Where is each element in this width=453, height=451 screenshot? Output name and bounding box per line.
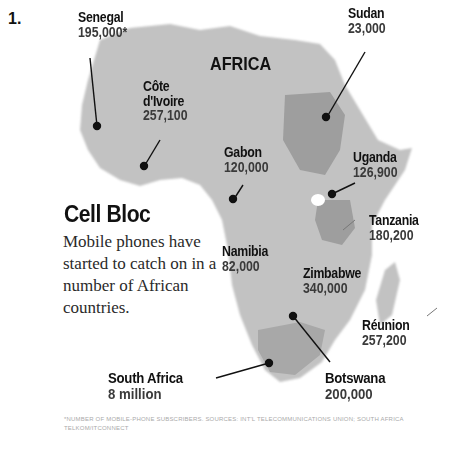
country-name: Botswana (325, 370, 385, 386)
label-zimbabwe: Zimbabwe 340,000 (303, 266, 369, 295)
label-gabon: Gabon 120,000 (224, 145, 275, 174)
label-reunion: Réunion 257,200 (362, 318, 416, 347)
country-name: Côte d'Ivoire (143, 79, 196, 108)
country-value: 8 million (108, 386, 183, 402)
country-value: 257,200 (362, 333, 409, 348)
country-name: Tanzania (369, 213, 419, 228)
country-value: 23,000 (348, 21, 386, 36)
country-name: Réunion (362, 318, 409, 333)
country-value: 180,200 (369, 228, 419, 243)
madagascar (376, 262, 400, 325)
country-name: Sudan (348, 6, 386, 21)
country-value: 195,000* (78, 25, 127, 40)
country-name: Uganda (353, 150, 398, 165)
label-uganda: Uganda 126,900 (353, 150, 404, 179)
map-title: AFRICA (210, 54, 271, 75)
country-value: 120,000 (224, 160, 269, 175)
country-value: 257,100 (143, 108, 196, 123)
label-cote-divoire: Côte d'Ivoire 257,100 (143, 79, 203, 123)
description: Mobile phones have started to catch on i… (63, 231, 233, 319)
label-south-africa: South Africa 8 million (108, 370, 193, 402)
country-name: Gabon (224, 145, 269, 160)
lake-victoria (311, 194, 325, 206)
label-sudan: Sudan 23,000 (348, 6, 391, 35)
footnote: *NUMBER OF MOBILE-PHONE SUBSCRIBERS. SOU… (64, 415, 444, 433)
label-senegal: Senegal 195,000* (78, 10, 134, 39)
country-name: Zimbabwe (303, 266, 361, 281)
country-name: South Africa (108, 370, 183, 386)
headline: Cell Bloc (64, 200, 150, 228)
country-value: 340,000 (303, 281, 361, 296)
label-botswana: Botswana 200,000 (325, 370, 393, 402)
country-name: Senegal (78, 10, 127, 25)
country-value: 126,900 (353, 165, 398, 180)
country-value: 200,000 (325, 386, 385, 402)
label-tanzania: Tanzania 180,200 (369, 213, 425, 242)
